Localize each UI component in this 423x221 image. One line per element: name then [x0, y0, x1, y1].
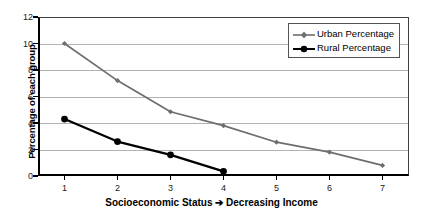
y-axis-tick-label: 10 [14, 39, 33, 49]
x-axis-tick-mark [117, 176, 119, 180]
legend-marker-diamond-icon [292, 27, 316, 39]
legend-marker-circle-icon [292, 41, 316, 53]
line-chart: Percentage of each group 024681012 Socio… [0, 0, 423, 221]
y-axis-tick-label: 8 [14, 65, 33, 75]
x-axis-title: Socioeconomic Status ➔ Decreasing Income [0, 197, 423, 208]
x-axis-tick-label: 3 [168, 183, 173, 193]
gridline [40, 97, 408, 98]
legend-item-rural[interactable]: Rural Percentage [292, 40, 394, 54]
y-axis-tick-label: 2 [14, 145, 33, 155]
y-axis-tick-mark [33, 43, 38, 45]
x-axis-tick-mark [382, 176, 384, 180]
x-axis-tick-mark [329, 176, 331, 180]
x-axis-tick-mark [223, 176, 225, 180]
x-axis-tick-mark [170, 176, 172, 180]
y-axis-tick-label: 12 [14, 12, 33, 22]
x-axis-tick-label: 5 [274, 183, 279, 193]
y-axis-tick-mark [33, 16, 38, 18]
y-axis-tick-mark [33, 149, 38, 151]
legend-label-urban: Urban Percentage [316, 28, 394, 39]
x-axis-tick-label: 7 [380, 183, 385, 193]
y-axis-tick-label: 4 [14, 118, 33, 128]
x-axis-tick-label: 1 [62, 183, 67, 193]
x-axis-tick-mark [64, 176, 66, 180]
x-axis-tick-mark [276, 176, 278, 180]
gridline [40, 70, 408, 71]
gridline [40, 123, 408, 124]
y-axis-tick-mark [33, 69, 38, 71]
legend-item-urban[interactable]: Urban Percentage [292, 26, 394, 40]
x-axis-tick-label: 4 [221, 183, 226, 193]
x-axis-tick-label: 2 [115, 183, 120, 193]
x-axis-tick-label: 6 [327, 183, 332, 193]
y-axis-tick-label: 0 [14, 171, 33, 181]
chart-legend: Urban Percentage Rural Percentage [288, 23, 400, 58]
y-axis-tick-mark [33, 96, 38, 98]
gridline [40, 150, 408, 151]
y-axis-tick-mark [33, 122, 38, 124]
legend-label-rural: Rural Percentage [316, 42, 391, 53]
y-axis-tick-labels: 024681012 [14, 0, 33, 221]
y-axis-tick-label: 6 [14, 92, 33, 102]
y-axis-tick-mark [33, 175, 38, 177]
